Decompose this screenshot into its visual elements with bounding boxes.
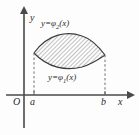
x-axis-arrowhead [127, 91, 135, 99]
tick-label-a: a [30, 97, 35, 107]
y-axis-label: y [30, 13, 34, 23]
figure-region-between-curves: y x O a b y=φ2(x) y=φ1(x) [0, 0, 139, 135]
shaded-region [34, 34, 105, 69]
lower-label-arg: (x) [66, 72, 76, 82]
origin-label: O [13, 97, 20, 107]
upper-curve-label: y=φ2(x) [41, 19, 69, 30]
figure-canvas [0, 0, 139, 135]
x-axis-label: x [118, 97, 122, 107]
lower-curve-label: y=φ1(x) [48, 73, 76, 84]
upper-label-arg: (x) [59, 18, 69, 28]
tick-label-b: b [101, 97, 106, 107]
y-axis-arrowhead [20, 6, 28, 14]
